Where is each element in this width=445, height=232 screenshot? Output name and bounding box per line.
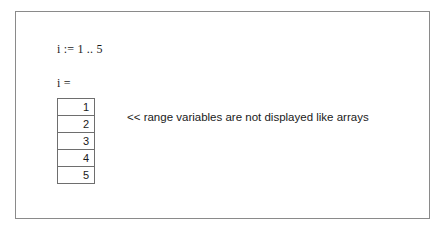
result-label[interactable]: i = [57,76,71,91]
table-row: 4 [58,150,94,167]
range-definition-expression[interactable]: i := 1 .. 5 [57,42,103,57]
table-row: 3 [58,133,94,150]
table-row: 2 [58,116,94,133]
table-row: 1 [58,99,94,116]
document-frame: i := 1 .. 5 i = 1 2 3 4 5 << range varia… [15,11,430,219]
table-row: 5 [58,167,94,184]
annotation-text: << range variables are not displayed lik… [127,111,369,123]
range-value-table[interactable]: 1 2 3 4 5 [57,98,95,184]
